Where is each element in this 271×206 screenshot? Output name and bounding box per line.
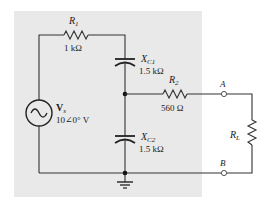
xc1-value: 1.5 kΩ [139, 66, 164, 76]
xc2-value: 1.5 kΩ [139, 144, 164, 154]
ground-junction-dot [123, 171, 128, 176]
terminal-b-label: B [220, 158, 226, 168]
rl-label: RL [229, 129, 240, 142]
vs-value: 10∠0° V [56, 115, 90, 125]
rl-resistor-icon [248, 120, 256, 145]
circuit-diagram: R1 1 kΩ XC1 1.5 kΩ R2 560 Ω Vs 10∠0° V X… [0, 0, 271, 206]
terminal-b[interactable] [221, 170, 226, 175]
r1-value: 1 kΩ [64, 43, 82, 53]
r2-value: 560 Ω [161, 103, 184, 113]
terminal-a[interactable] [221, 91, 226, 96]
terminal-a-label: A [219, 79, 226, 89]
